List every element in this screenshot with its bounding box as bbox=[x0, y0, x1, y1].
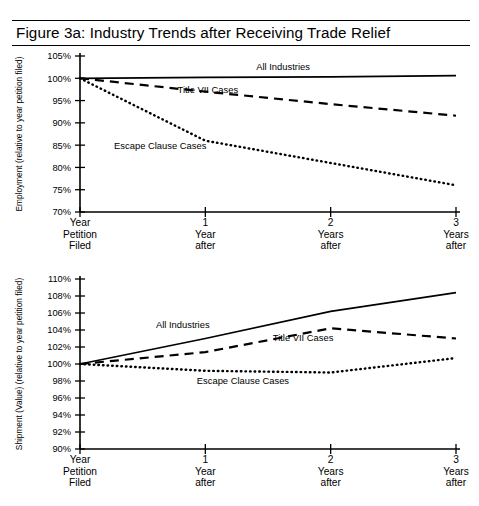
x-category-label: Years bbox=[318, 466, 344, 477]
employment-chart: Employment (relative to year petition fi… bbox=[0, 44, 479, 264]
series-line-title-vii-cases bbox=[80, 78, 456, 115]
x-category-label: 3 bbox=[453, 454, 459, 465]
x-category-label: after bbox=[446, 477, 467, 488]
figure-3a: Figure 3a: Industry Trends after Receivi… bbox=[0, 0, 479, 506]
page-title: Figure 3a: Industry Trends after Receivi… bbox=[16, 24, 470, 41]
x-category-label: Year bbox=[195, 229, 216, 240]
x-category-label: Years bbox=[443, 466, 469, 477]
y-tick-label: 90% bbox=[52, 444, 71, 454]
series-label-escape-clause-cases: Escape Clause Cases bbox=[114, 140, 207, 151]
x-category-label: 1 bbox=[202, 454, 208, 465]
y-axis-title: Employment (relative to year petition fi… bbox=[14, 56, 24, 211]
series-line-all-industries bbox=[80, 293, 456, 364]
y-tick-label: 102% bbox=[47, 342, 71, 352]
y-tick-label: 110% bbox=[48, 274, 71, 284]
x-category-label: after bbox=[320, 477, 341, 488]
x-category-label: Petition bbox=[63, 466, 97, 477]
series-label-all-industries: All Industries bbox=[256, 61, 310, 72]
x-category-label: after bbox=[195, 240, 216, 251]
series-line-title-vii-cases bbox=[80, 328, 456, 364]
series-line-escape-clause-cases bbox=[80, 78, 456, 185]
x-category-label: Petition bbox=[63, 229, 97, 240]
x-category-label: 3 bbox=[453, 217, 459, 228]
y-tick-label: 94% bbox=[52, 410, 71, 420]
y-tick-label: 104% bbox=[47, 325, 71, 335]
y-tick-label: 98% bbox=[52, 376, 71, 386]
y-tick-label: 95% bbox=[52, 96, 71, 106]
shipment-chart: Shipment (Value) (relative to year petit… bbox=[0, 264, 479, 506]
y-tick-label: 105% bbox=[47, 51, 71, 61]
figure-title-block: Figure 3a: Industry Trends after Receivi… bbox=[12, 20, 470, 46]
series-label-title-vii-cases: Title VII Cases bbox=[178, 84, 239, 95]
x-category-label: Filed bbox=[69, 240, 91, 251]
y-tick-label: 85% bbox=[52, 141, 71, 151]
x-category-label: 2 bbox=[328, 217, 334, 228]
x-category-label: Years bbox=[318, 229, 344, 240]
y-tick-label: 70% bbox=[52, 207, 71, 217]
y-tick-label: 108% bbox=[47, 291, 71, 301]
y-tick-label: 100% bbox=[47, 74, 71, 84]
y-tick-label: 96% bbox=[52, 393, 71, 403]
y-tick-label: 75% bbox=[52, 185, 71, 195]
series-line-all-industries bbox=[80, 76, 456, 79]
x-category-label: after bbox=[320, 240, 341, 251]
series-label-all-industries: All Industries bbox=[156, 319, 210, 330]
y-axis-title: Shipment (Value) (relative to year petit… bbox=[14, 278, 24, 451]
y-tick-label: 90% bbox=[52, 118, 71, 128]
x-category-label: 1 bbox=[202, 217, 208, 228]
y-tick-label: 80% bbox=[52, 163, 71, 173]
y-tick-label: 100% bbox=[47, 359, 71, 369]
x-category-label: Filed bbox=[69, 477, 91, 488]
x-category-label: after bbox=[446, 240, 467, 251]
x-category-label: after bbox=[195, 477, 216, 488]
x-category-label: Years bbox=[443, 229, 469, 240]
y-tick-label: 92% bbox=[52, 427, 71, 437]
series-label-escape-clause-cases: Escape Clause Cases bbox=[197, 375, 290, 386]
y-tick-label: 106% bbox=[47, 308, 71, 318]
x-category-label: Year bbox=[70, 454, 91, 465]
x-category-label: Year bbox=[195, 466, 216, 477]
series-label-title-vii-cases: Title VII Cases bbox=[273, 332, 334, 343]
series-line-escape-clause-cases bbox=[80, 358, 456, 372]
x-category-label: 2 bbox=[328, 454, 334, 465]
x-category-label: Year bbox=[70, 217, 91, 228]
